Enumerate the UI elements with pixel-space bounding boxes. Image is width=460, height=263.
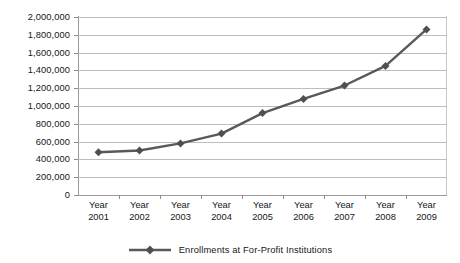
x-axis-tick-label: Year2005 <box>241 200 285 223</box>
data-point-marker <box>259 109 267 117</box>
legend-line-marker-icon <box>128 244 172 256</box>
x-axis-tick-labels: Year2001Year2002Year2003Year2004Year2005… <box>78 200 447 234</box>
x-axis-tick-label: Year2004 <box>200 200 244 223</box>
x-axis-tick-label: Year2007 <box>323 200 367 223</box>
y-axis-tick-label: 600,000 <box>0 137 70 147</box>
data-point-marker <box>95 148 103 156</box>
chart-legend: Enrollments at For-Profit Institutions <box>0 240 460 260</box>
y-axis-tick-label: 1,200,000 <box>0 83 70 93</box>
data-point-marker <box>177 139 185 147</box>
legend-label: Enrollments at For-Profit Institutions <box>179 245 332 255</box>
x-axis-tick <box>324 195 325 199</box>
y-axis-tick-label: 0 <box>0 190 70 200</box>
y-axis-tick-labels: 0200,000400,000600,000800,0001,000,0001,… <box>0 0 74 200</box>
x-axis-tick-label: Year2003 <box>159 200 203 223</box>
x-axis-tick-label: Year2009 <box>405 200 449 223</box>
x-axis-tick-label: Year2001 <box>77 200 121 223</box>
x-axis-line <box>78 195 447 196</box>
plot-area <box>78 17 447 195</box>
data-point-marker <box>300 95 308 103</box>
y-axis-tick <box>74 195 78 196</box>
x-axis-tick <box>365 195 366 199</box>
data-point-marker <box>218 130 226 138</box>
data-point-marker <box>341 82 349 90</box>
y-axis-tick-label: 2,000,000 <box>0 12 70 22</box>
y-axis-tick-label: 800,000 <box>0 119 70 129</box>
x-axis-tick <box>201 195 202 199</box>
line-chart: 0200,000400,000600,000800,0001,000,0001,… <box>0 0 460 263</box>
y-axis-tick-label: 1,800,000 <box>0 30 70 40</box>
legend-item-enrollments: Enrollments at For-Profit Institutions <box>128 244 332 256</box>
series-line <box>99 29 427 152</box>
series-enrollments-at-for-profit-institutions <box>78 17 447 195</box>
x-axis-tick-label: Year2002 <box>118 200 162 223</box>
y-axis-tick-label: 200,000 <box>0 172 70 182</box>
x-axis-tick <box>283 195 284 199</box>
y-axis-tick-label: 1,600,000 <box>0 48 70 58</box>
y-axis-tick-label: 1,000,000 <box>0 101 70 111</box>
data-point-marker <box>136 147 144 155</box>
y-axis-tick-label: 1,400,000 <box>0 65 70 75</box>
x-axis-tick <box>406 195 407 199</box>
x-axis-tick-label: Year2006 <box>282 200 326 223</box>
x-axis-tick <box>119 195 120 199</box>
x-axis-tick <box>242 195 243 199</box>
x-axis-tick-label: Year2008 <box>364 200 408 223</box>
y-axis-tick-label: 400,000 <box>0 154 70 164</box>
x-axis-tick <box>160 195 161 199</box>
